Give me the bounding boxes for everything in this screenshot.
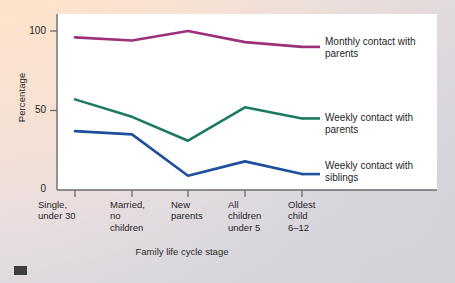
- legend-connectors: [302, 47, 320, 174]
- series-line-monthly-parents: [75, 31, 302, 47]
- series-line-weekly-siblings: [75, 131, 302, 176]
- x-axis-title: Family life cycle stage: [57, 246, 307, 257]
- y-tick-label-0: 0: [16, 183, 46, 194]
- series-line-weekly-parents: [75, 99, 302, 140]
- figure-container: Percentage 100 50 0 Single, under 30 Mar…: [0, 0, 455, 283]
- y-tick-label-100: 100: [16, 25, 46, 36]
- legend-label-monthly-parents: Monthly contact with parents: [325, 36, 453, 60]
- y-tick-label-50: 50: [16, 104, 46, 115]
- series-lines: [75, 31, 302, 176]
- legend-label-weekly-siblings: Weekly contact with siblings: [325, 160, 453, 184]
- x-tick-label-married-no-children: Married, no children: [110, 199, 172, 233]
- y-axis-title: Percentage: [16, 53, 27, 143]
- x-tick-label-new-parents: New parents: [171, 199, 227, 222]
- x-tick-label-single-under-30: Single, under 30: [38, 199, 106, 222]
- x-tick-label-oldest-child-6-12: Oldest child 6–12: [288, 199, 346, 233]
- x-tick-label-all-children-under-5: All children under 5: [228, 199, 288, 233]
- corner-marker: [14, 266, 27, 275]
- legend-label-weekly-parents: Weekly contact with parents: [325, 112, 453, 136]
